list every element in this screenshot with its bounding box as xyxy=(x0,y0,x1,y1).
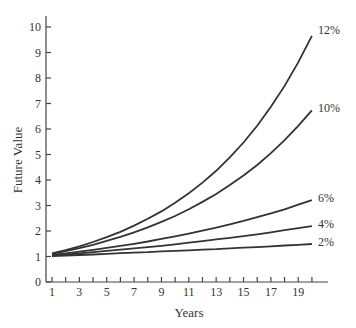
x-tick-label: 13 xyxy=(210,285,222,299)
series-label-2pct: 2% xyxy=(318,235,334,249)
x-tick-label: 19 xyxy=(292,285,304,299)
x-tick-label: 5 xyxy=(104,285,110,299)
series-label-4pct: 4% xyxy=(318,217,334,231)
plot-area xyxy=(52,36,312,256)
y-tick-label: 0 xyxy=(35,275,41,289)
series-label-6pct: 6% xyxy=(318,191,334,205)
y-tick-label: 10 xyxy=(29,20,41,34)
series-label-10pct: 10% xyxy=(318,101,340,115)
y-tick-label: 5 xyxy=(35,148,41,162)
x-axis: 135791113151719 xyxy=(46,277,328,299)
y-tick-label: 3 xyxy=(35,199,41,213)
series-label-12pct: 12% xyxy=(318,23,340,37)
y-tick-label: 1 xyxy=(35,250,41,264)
y-tick-label: 2 xyxy=(35,224,41,238)
y-tick-label: 4 xyxy=(35,173,41,187)
x-tick-label: 1 xyxy=(49,285,55,299)
y-tick-label: 6 xyxy=(35,122,41,136)
y-tick-label: 7 xyxy=(35,97,41,111)
x-tick-label: 15 xyxy=(238,285,250,299)
y-tick-label: 8 xyxy=(35,71,41,85)
y-axis: 012345678910 xyxy=(29,16,51,289)
x-tick-label: 17 xyxy=(265,285,277,299)
x-axis-title: Years xyxy=(174,305,203,320)
y-axis-title: Future Value xyxy=(10,126,25,193)
y-tick-label: 9 xyxy=(35,46,41,60)
x-tick-label: 9 xyxy=(158,285,164,299)
x-tick-label: 3 xyxy=(76,285,82,299)
series-line-12pct xyxy=(52,36,312,254)
future-value-chart: 012345678910 135791113151719 12%10%6%4%2… xyxy=(0,0,356,328)
series-labels: 12%10%6%4%2% xyxy=(318,23,340,249)
x-tick-label: 7 xyxy=(131,285,137,299)
x-tick-label: 11 xyxy=(183,285,195,299)
